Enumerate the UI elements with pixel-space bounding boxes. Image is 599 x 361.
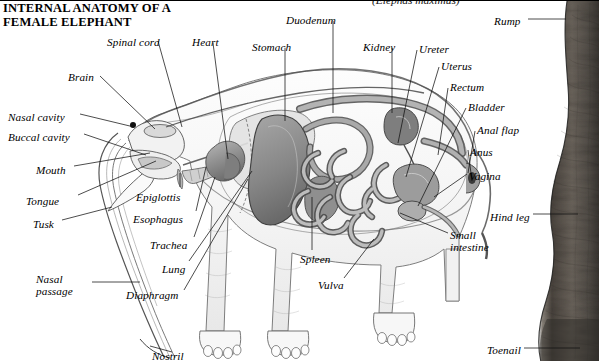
label-anus: Anus	[470, 146, 493, 158]
label-epiglottis: Epiglottis	[136, 191, 181, 203]
label-small-intestine: Small intestine	[450, 229, 516, 254]
label-spinal-cord: Spinal cord	[107, 36, 160, 48]
label-rump: Rump	[494, 15, 521, 27]
label-nasal-passage: Nasal passage	[36, 273, 98, 298]
label-anal-flap: Anal flap	[477, 124, 519, 136]
label-toenail: Toenail	[487, 344, 521, 356]
label-bladder: Bladder	[468, 101, 505, 113]
label-stomach: Stomach	[252, 41, 291, 53]
label-rectum: Rectum	[450, 81, 484, 93]
label-buccal-cavity: Buccal cavity	[8, 131, 70, 143]
label-ureter: Ureter	[419, 43, 449, 55]
label-diaphragm: Diaphragm	[126, 289, 179, 301]
label-kidney: Kidney	[363, 41, 395, 53]
label-esophagus: Esophagus	[133, 213, 183, 225]
label-mouth: Mouth	[36, 164, 66, 176]
label-spleen: Spleen	[300, 253, 330, 265]
label-heart: Heart	[192, 36, 219, 48]
label-uterus: Uterus	[441, 60, 472, 72]
label-hind-leg: Hind leg	[490, 211, 530, 223]
scientific-name: (Elephas maximus)	[372, 0, 460, 6]
label-brain: Brain	[68, 71, 94, 83]
page-title: INTERNAL ANATOMY OF A FEMALE ELEPHANT	[3, 2, 171, 29]
label-tongue: Tongue	[26, 195, 59, 207]
elephant-anatomy-illustration	[0, 1, 599, 361]
label-vulva: Vulva	[318, 279, 344, 291]
label-trachea: Trachea	[150, 239, 187, 251]
elephant-hind-leg-photo	[539, 1, 599, 361]
label-nasal-cavity: Nasal cavity	[8, 111, 65, 123]
label-nostril: Nostril	[152, 350, 184, 361]
label-tusk: Tusk	[33, 218, 54, 230]
label-lung: Lung	[162, 263, 185, 275]
label-vagina: Vagina	[469, 170, 501, 182]
anatomy-figure: INTERNAL ANATOMY OF A FEMALE ELEPHANT (E…	[0, 0, 599, 361]
label-duodenum: Duodenum	[286, 14, 336, 26]
